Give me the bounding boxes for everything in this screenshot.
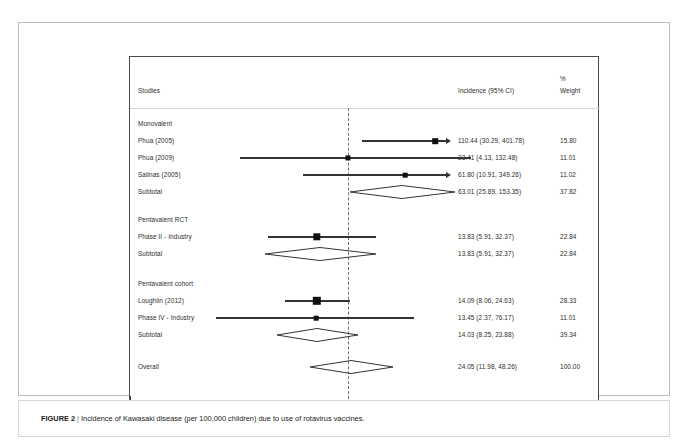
confidence-interval-line xyxy=(240,157,471,158)
study-row: Salinas (2005)61.80 (10.91, 349.26)11.02 xyxy=(130,167,600,183)
study-label: Phase IV - Industry xyxy=(138,314,194,321)
estimate-ci-text: 13.83 (5.91, 32.37) xyxy=(458,250,514,257)
estimate-ci-text: 13.83 (5.91, 32.37) xyxy=(458,233,514,240)
weight-value: 15.80 xyxy=(560,137,616,144)
caption-box: FIGURE 2|Incidence of Kawasaki disease (… xyxy=(18,400,670,437)
study-label: Loughlin (2012) xyxy=(138,297,184,304)
estimate-ci-text: 110.44 (30.29, 401.78) xyxy=(458,137,524,144)
study-row: Phua (2005)110.44 (30.29, 401.78)15.80 xyxy=(130,133,600,149)
confidence-interval-line xyxy=(303,174,443,175)
subtotal-diamond xyxy=(350,186,455,199)
figure-caption: FIGURE 2|Incidence of Kawasaki disease (… xyxy=(41,414,364,423)
overall-diamond xyxy=(310,361,393,374)
column-header-incidence: Incidence (95% CI) xyxy=(458,87,514,94)
study-label: Subtotal xyxy=(138,250,162,257)
weight-value: 100.00 xyxy=(560,363,616,370)
effect-size-marker xyxy=(313,233,320,240)
study-row: Loughlin (2012)14.09 (8.06, 24.63)28.33 xyxy=(130,293,600,309)
confidence-interval-line xyxy=(268,236,376,237)
effect-size-marker xyxy=(314,316,319,321)
group-label: Pentavalent RCT xyxy=(138,216,188,223)
estimate-ci-text: 14.03 (8.25, 23.88) xyxy=(458,331,514,338)
study-row: Phase II - Industry13.83 (5.91, 32.37)22… xyxy=(130,229,600,245)
forest-plot: Studies Incidence (95% CI) % Weight Mono… xyxy=(129,56,599,403)
study-label: Subtotal xyxy=(138,188,162,195)
ci-truncation-arrow xyxy=(446,138,451,144)
study-row: Phase IV - Industry13.45 (2.37, 76.17)11… xyxy=(130,310,600,326)
column-header-studies: Studies xyxy=(138,87,160,94)
figure-frame: Studies Incidence (95% CI) % Weight Mono… xyxy=(18,22,670,396)
ci-truncation-arrow xyxy=(446,172,451,178)
study-label: Subtotal xyxy=(138,331,162,338)
estimate-ci-text: 24.05 (11.98, 48.26) xyxy=(458,363,517,370)
weight-value: 11.01 xyxy=(560,314,616,321)
header-divider xyxy=(130,108,600,109)
subtotal-row: Subtotal13.83 (5.91, 32.37)22.84 xyxy=(130,246,600,262)
estimate-ci-text: 63.01 (25.89, 153.35) xyxy=(458,188,521,195)
estimate-ci-text: 13.45 (2.37, 76.17) xyxy=(458,314,514,321)
study-label: Salinas (2005) xyxy=(138,171,181,178)
study-row: Phua (2009)23.41 (4.13, 132.48)11.01 xyxy=(130,150,600,166)
subtotal-diamond xyxy=(265,248,376,261)
effect-size-marker xyxy=(313,297,321,305)
group-heading: Monovalent xyxy=(130,116,600,132)
group-heading: Pentavalent RCT xyxy=(130,212,600,228)
study-label: Overall xyxy=(138,363,159,370)
effect-size-marker xyxy=(432,138,438,144)
column-header-weight: Weight xyxy=(560,87,616,94)
estimate-ci-text: 61.80 (10.91, 349.26) xyxy=(458,171,521,178)
weight-value: 11.02 xyxy=(560,171,616,178)
weight-value: 39.34 xyxy=(560,331,616,338)
effect-size-marker xyxy=(403,173,408,178)
weight-value: 22.84 xyxy=(560,233,616,240)
subtotal-row: Subtotal63.01 (25.89, 153.35)37.82 xyxy=(130,184,600,200)
weight-value: 22.84 xyxy=(560,250,616,257)
weight-value: 28.33 xyxy=(560,297,616,304)
group-label: Pentavalent cohort xyxy=(138,280,193,287)
study-label: Phase II - Industry xyxy=(138,233,192,240)
weight-value: 11.01 xyxy=(560,154,616,161)
overall-row: Overall24.05 (11.98, 48.26)100.00 xyxy=(130,359,600,375)
subtotal-row: Subtotal14.03 (8.25, 23.88)39.34 xyxy=(130,327,600,343)
caption-text: Incidence of Kawasaki disease (per 100,0… xyxy=(81,414,364,423)
study-label: Phua (2009) xyxy=(138,154,174,161)
figure-label: FIGURE 2 xyxy=(41,414,75,423)
column-header-percent: % xyxy=(560,75,616,82)
group-heading: Pentavalent cohort xyxy=(130,276,600,292)
effect-size-marker xyxy=(345,155,350,160)
confidence-interval-line xyxy=(362,140,435,141)
study-label: Phua (2005) xyxy=(138,137,174,144)
group-label: Monovalent xyxy=(138,120,172,127)
estimate-ci-text: 14.09 (8.06, 24.63) xyxy=(458,297,514,304)
weight-value: 37.82 xyxy=(560,188,616,195)
subtotal-diamond xyxy=(277,329,358,342)
